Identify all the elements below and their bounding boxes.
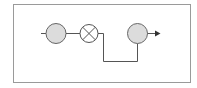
circle-node-icon — [128, 24, 148, 44]
multiply-node-icon — [80, 25, 98, 43]
diagram-border — [14, 5, 191, 83]
circle-node-icon — [46, 24, 66, 44]
diagram-canvas — [0, 0, 197, 88]
